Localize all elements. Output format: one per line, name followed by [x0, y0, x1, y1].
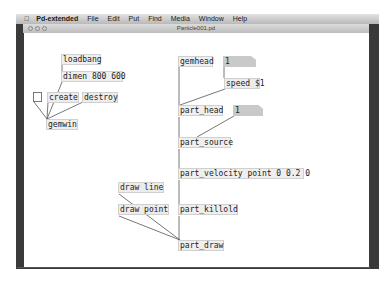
- menu-file[interactable]: File: [87, 14, 98, 24]
- object-loadbang[interactable]: loadbang: [61, 54, 101, 65]
- object-dimen[interactable]: dimen 800 600: [61, 71, 123, 82]
- object-part-killold[interactable]: part_killold: [178, 204, 238, 215]
- number-box-2[interactable]: 1: [233, 105, 263, 116]
- menu-app-name[interactable]: Pd-extended: [36, 14, 78, 24]
- patch-canvas[interactable]: [24, 33, 369, 268]
- menu-find[interactable]: Find: [148, 14, 162, 24]
- object-gemwin[interactable]: gemwin: [46, 119, 78, 130]
- window-bottom-edge: [17, 267, 370, 268]
- menu-window[interactable]: Window: [199, 14, 224, 24]
- object-part-head[interactable]: part_head: [178, 105, 223, 116]
- message-speed[interactable]: speed $1: [224, 78, 260, 89]
- object-part-source[interactable]: part_source: [178, 137, 231, 148]
- apple-icon[interactable]: : [24, 14, 29, 24]
- menu-put[interactable]: Put: [129, 14, 140, 24]
- object-gemhead[interactable]: gemhead: [178, 56, 213, 67]
- message-draw-line[interactable]: draw line: [118, 182, 164, 193]
- window-title: Particle001.pd: [23, 24, 369, 33]
- number-box-1[interactable]: 1: [223, 56, 256, 67]
- window-titlebar[interactable]: Particle001.pd: [23, 24, 369, 33]
- menu-media[interactable]: Media: [171, 14, 190, 24]
- toggle[interactable]: [33, 92, 42, 102]
- message-draw-point[interactable]: draw point: [118, 204, 169, 215]
- menu-bar:  Pd-extended File Edit Put Find Media W…: [16, 14, 379, 24]
- message-create[interactable]: create: [47, 92, 79, 103]
- menu-help[interactable]: Help: [233, 14, 247, 24]
- message-destroy[interactable]: destroy: [82, 92, 118, 103]
- menu-edit[interactable]: Edit: [108, 14, 120, 24]
- object-part-velocity[interactable]: part_velocity point 0 0.2 0: [178, 168, 304, 179]
- object-part-draw[interactable]: part_draw: [178, 240, 224, 251]
